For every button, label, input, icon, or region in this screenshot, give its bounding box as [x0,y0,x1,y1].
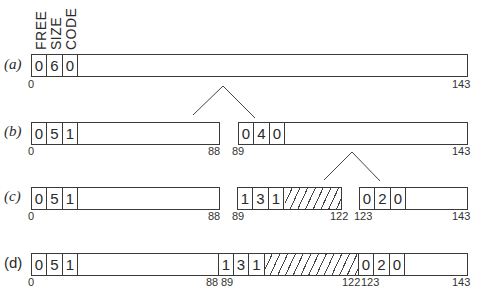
addr-end: 143 [452,210,470,222]
free-cell: 0 [360,188,375,209]
free-cell: 1 [238,188,253,209]
addr-start: 123 [361,276,379,288]
addr-end: 88 [206,276,218,288]
code-cell: 1 [63,123,78,144]
memory-block-c1-allocated: 1 3 1 [237,187,342,210]
row-label-b: (b) [4,123,22,140]
code-cell: 1 [249,254,265,275]
free-cell: 0 [239,123,254,144]
addr-start: 89 [232,210,244,222]
size-cell: 5 [47,254,63,275]
size-cell: 5 [47,123,63,144]
addr-start: 0 [28,145,34,157]
free-cell: 0 [32,55,47,76]
code-cell: 0 [63,55,78,76]
addr-start: 0 [28,78,34,90]
block-divider [78,254,219,275]
free-cell: 1 [219,254,234,275]
split-connector-b [193,86,255,118]
memory-block-c0: 0 5 1 [31,187,220,210]
addr-start: 0 [28,210,34,222]
size-cell: 2 [374,254,390,275]
addr-start: 123 [354,210,372,222]
addr-start: 0 [28,276,34,288]
addr-end: 88 [208,145,220,157]
free-cell: 0 [32,254,47,275]
memory-row-d: 0 5 1 1 3 1 0 2 0 [31,253,468,276]
code-cell: 1 [63,254,78,275]
memory-block-b1: 0 4 0 [238,122,468,145]
free-cell: 0 [359,254,374,275]
code-cell: 1 [63,188,78,209]
memory-block-a0: 0 6 0 [31,54,468,77]
size-cell: 3 [253,188,269,209]
addr-end: 122 [342,276,360,288]
addr-end: 88 [208,210,220,222]
code-cell: 0 [390,254,405,275]
free-cell: 0 [32,188,47,209]
addr-end: 143 [452,145,470,157]
addr-start: 89 [221,276,233,288]
addr-end: 143 [452,78,470,90]
memory-block-b0: 0 5 1 [31,122,220,145]
row-label-c: (c) [4,188,21,205]
allocated-hatch [285,188,341,209]
size-cell: 5 [47,188,63,209]
size-cell: 2 [375,188,391,209]
allocated-hatch [265,254,359,275]
code-cell: 1 [269,188,284,209]
addr-end: 122 [330,210,348,222]
addr-end: 143 [452,276,470,288]
code-cell: 0 [391,188,406,209]
addr-start: 89 [232,145,244,157]
row-label-d: (d) [4,254,22,271]
code-cell: 0 [270,123,285,144]
row-label-a: (a) [4,56,22,73]
size-cell: 3 [234,254,249,275]
memory-block-c2: 0 2 0 [359,187,468,210]
size-cell: 4 [254,123,270,144]
split-connector-c [324,152,380,181]
free-cell: 0 [32,123,47,144]
size-cell: 6 [47,55,63,76]
